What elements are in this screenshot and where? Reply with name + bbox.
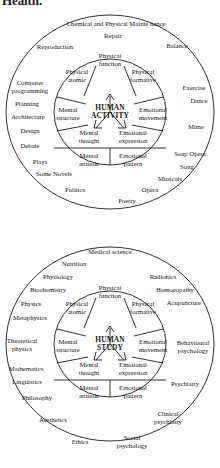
outer-label-opera[interactable]: Opera <box>142 186 158 194</box>
sector-line2: pattern <box>124 392 143 399</box>
sector-line1: Mental <box>80 384 99 391</box>
arrow-lower-right <box>118 352 126 360</box>
sector-line2: attitude <box>79 160 99 167</box>
core-label-human-study: HUMANSTUDY <box>95 336 125 353</box>
inner-sector-physical-formative[interactable]: Physicalformative <box>130 300 156 315</box>
outer-label-song[interactable]: Song <box>180 163 194 171</box>
inner-sector-mental-thought[interactable]: Mentalthought <box>79 129 99 144</box>
inner-sector-mental-attitude[interactable]: Mentalattitude <box>79 152 99 167</box>
sector-line2: structure <box>56 114 79 121</box>
sector-line1: Physical <box>132 68 155 75</box>
outer-label-dance[interactable]: Dance <box>190 97 207 105</box>
sector-line2: formative <box>130 308 156 315</box>
inner-sector-emotional-pattern[interactable]: Emotionalpattern <box>119 384 147 399</box>
sector-line1: Emotional <box>139 106 167 113</box>
sector-line2: thought <box>79 137 99 144</box>
outer-label-medical-science[interactable]: Medical science <box>88 248 131 256</box>
outer-label-chemical-and-physical-maintenance[interactable]: Chemical and Physical Mainte nance <box>66 20 165 28</box>
inner-sector-mental-structure[interactable]: Mentalstructure <box>56 338 79 353</box>
outer-label-musicals[interactable]: Musicals <box>158 175 182 183</box>
sector-line2: movement <box>139 114 167 121</box>
divider-pfo-em <box>134 329 163 336</box>
sector-line2: thought <box>79 369 99 376</box>
sector-line1: Physical <box>66 300 89 307</box>
sector-line1: Emotional <box>139 338 167 345</box>
outer-label-poetry[interactable]: Poetry <box>118 197 135 205</box>
inner-sector-emotional-movement[interactable]: Emotionalmovement <box>139 106 167 121</box>
sector-line2: pattern <box>124 160 143 167</box>
outer-label-ethics[interactable]: Ethics <box>72 438 89 446</box>
inner-sector-physical-function[interactable]: Physicalfunction <box>99 52 122 67</box>
outer-label-biochemistry[interactable]: Biochemistry <box>30 286 66 294</box>
sector-line1: Physical <box>99 52 122 59</box>
sector-line1: Emotional <box>119 129 147 136</box>
sector-line2: attitude <box>79 392 99 399</box>
outer-label-social-psychology[interactable]: Social psychology <box>108 434 156 449</box>
sector-line2: atomic <box>68 308 86 315</box>
arrow-lower-left <box>94 120 102 128</box>
outer-label-plays[interactable]: Plays <box>33 158 48 166</box>
outer-label-aesthetics[interactable]: Aesthetics <box>39 416 67 424</box>
outer-label-linguistics[interactable]: Linguistics <box>12 378 42 386</box>
sector-line2: expression <box>119 369 148 376</box>
human-activity-diagram: HUMANACTIVITYPhysicalfunctionPhysicalato… <box>0 0 220 215</box>
inner-sector-emotional-pattern[interactable]: Emotionalpattern <box>119 152 147 167</box>
inner-sector-mental-thought[interactable]: Mentalthought <box>79 361 99 376</box>
outer-label-nutrition[interactable]: Nutrition <box>62 260 87 268</box>
outer-label-exercise[interactable]: Exercise <box>182 84 205 92</box>
inner-sector-mental-attitude[interactable]: Mentalattitude <box>79 384 99 399</box>
sector-line2: movement <box>139 346 167 353</box>
outer-label-theoretical-physics[interactable]: Theoretical physics <box>0 337 46 352</box>
outer-label-planning[interactable]: Planning <box>15 100 39 108</box>
sector-line1: Physical <box>66 68 89 75</box>
outer-label-metaphysics[interactable]: Metaphysics <box>13 314 47 322</box>
arrow-lower-right <box>118 120 126 128</box>
outer-label-design[interactable]: Design <box>21 127 40 135</box>
outer-label-reproduction[interactable]: Reproduction <box>37 43 73 51</box>
inner-sector-physical-atomic[interactable]: Physicalatomic <box>66 68 89 83</box>
core-label-line2: ACTIVITY <box>91 111 129 120</box>
sector-line1: Mental <box>80 129 99 136</box>
human-study-diagram: HUMANSTUDYPhysicalfunctionPhysicalatomic… <box>0 232 220 468</box>
outer-label-physiology[interactable]: Physiology <box>43 273 73 281</box>
outer-label-mathematics[interactable]: Mathematics <box>9 365 44 373</box>
outer-label-clinical-psychiatry[interactable]: Clinical psychiatry <box>144 410 192 425</box>
sector-line1: Mental <box>59 338 78 345</box>
outer-label-balance[interactable]: Balance <box>166 42 188 50</box>
sector-line2: formative <box>130 76 156 83</box>
outer-label-behavioural-psychology[interactable]: Behavioural psychology <box>169 339 217 354</box>
outer-label-homoeopathy[interactable]: Homoeopathy <box>156 286 194 294</box>
sector-line1: Physical <box>132 300 155 307</box>
outer-label-mime[interactable]: Mime <box>188 123 204 131</box>
outer-label-psychiatry[interactable]: Psychiatry <box>171 380 199 388</box>
sector-line2: atomic <box>68 76 86 83</box>
outer-label-architecture[interactable]: Architecture <box>11 113 44 121</box>
outer-label-radionics[interactable]: Radionics <box>150 273 177 281</box>
inner-sector-physical-function[interactable]: Physicalfunction <box>99 284 122 299</box>
inner-sector-emotional-expression[interactable]: Emotionalexpression <box>119 361 148 376</box>
outer-label-philosophy[interactable]: Philosophy <box>22 394 52 402</box>
sector-line1: Mental <box>59 106 78 113</box>
outer-label-computer-programming[interactable]: Computer programming <box>6 79 54 94</box>
sector-line1: Emotional <box>119 361 147 368</box>
sector-line2: structure <box>56 346 79 353</box>
inner-sector-emotional-expression[interactable]: Emotionalexpression <box>119 129 148 144</box>
outer-label-politics[interactable]: Politics <box>65 186 85 194</box>
sector-line1: Mental <box>80 361 99 368</box>
outer-label-some-novels[interactable]: Some Novels <box>36 170 72 178</box>
outer-label-soap-opera[interactable]: Soap Opera <box>174 150 205 158</box>
outer-label-acupuncture[interactable]: Acupuncture <box>167 299 202 307</box>
outer-label-repair[interactable]: Repair <box>104 32 122 40</box>
sector-line1: Physical <box>99 284 122 291</box>
divider-pfo-em <box>134 97 163 104</box>
inner-sector-physical-atomic[interactable]: Physicalatomic <box>66 300 89 315</box>
outer-label-debate[interactable]: Debate <box>21 142 40 150</box>
divider-pa-ms <box>57 97 86 104</box>
sector-line1: Emotional <box>119 152 147 159</box>
arrow-lower-left <box>94 352 102 360</box>
inner-sector-mental-structure[interactable]: Mentalstructure <box>56 106 79 121</box>
divider-pa-ms <box>57 329 86 336</box>
inner-sector-physical-formative[interactable]: Physicalformative <box>130 68 156 83</box>
outer-label-physics[interactable]: Physics <box>21 300 41 308</box>
inner-sector-emotional-movement[interactable]: Emotionalmovement <box>139 338 167 353</box>
